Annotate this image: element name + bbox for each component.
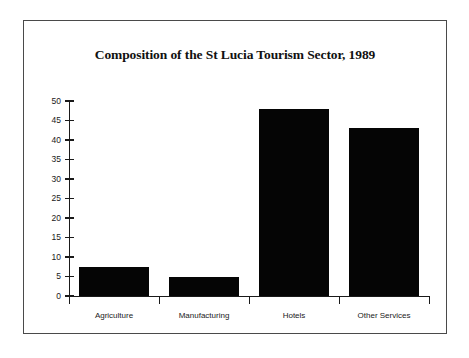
- bar-other-services[interactable]: [349, 128, 419, 296]
- plot-area: 05101520253035404550 AgricultureManufact…: [69, 95, 431, 302]
- y-tick-mark: [65, 139, 74, 140]
- y-tick-mark: [65, 198, 74, 199]
- category-label-hotels: Hotels: [249, 311, 339, 320]
- y-tick: 40: [69, 139, 78, 140]
- y-tick-label: 45: [52, 115, 61, 125]
- y-tick-mark: [65, 237, 74, 238]
- y-tick-mark: [65, 178, 74, 179]
- y-tick-label: 40: [52, 135, 61, 145]
- y-tick: 20: [69, 217, 78, 218]
- bar-manufacturing[interactable]: [169, 277, 239, 296]
- y-tick-mark: [65, 120, 74, 121]
- category-label-other-services: Other Services: [339, 311, 429, 320]
- chart-title: Composition of the St Lucia Tourism Sect…: [24, 47, 446, 63]
- y-tick: 35: [69, 159, 78, 160]
- x-tick-mark: [69, 296, 70, 304]
- y-tick: 30: [69, 178, 78, 179]
- y-tick-mark: [65, 100, 74, 101]
- y-tick-mark: [65, 256, 74, 257]
- bar-hotels[interactable]: [259, 109, 329, 296]
- y-tick-label: 0: [56, 291, 61, 301]
- y-tick-mark: [65, 159, 74, 160]
- category-label-manufacturing: Manufacturing: [159, 311, 249, 320]
- y-tick: 45: [69, 120, 78, 121]
- y-tick-mark: [65, 276, 74, 277]
- x-tick-mark: [429, 296, 430, 304]
- y-tick-label: 25: [52, 193, 61, 203]
- y-tick-label: 30: [52, 174, 61, 184]
- y-tick: 5: [69, 276, 78, 277]
- bar-agriculture[interactable]: [79, 267, 149, 296]
- y-tick-mark: [65, 217, 74, 218]
- figure-frame: Composition of the St Lucia Tourism Sect…: [23, 20, 447, 334]
- y-tick-label: 5: [56, 271, 61, 281]
- y-tick-label: 15: [52, 232, 61, 242]
- y-tick: 50: [69, 100, 78, 101]
- y-tick: 10: [69, 256, 78, 257]
- x-tick-mark: [339, 296, 340, 304]
- y-tick: 15: [69, 237, 78, 238]
- x-tick-mark: [249, 296, 250, 304]
- y-tick: 25: [69, 198, 78, 199]
- y-tick-label: 20: [52, 213, 61, 223]
- x-tick-mark: [159, 296, 160, 304]
- category-label-agriculture: Agriculture: [69, 311, 159, 320]
- y-tick-label: 35: [52, 154, 61, 164]
- y-tick-label: 50: [52, 96, 61, 106]
- y-tick: 0: [69, 295, 78, 296]
- y-tick-label: 10: [52, 252, 61, 262]
